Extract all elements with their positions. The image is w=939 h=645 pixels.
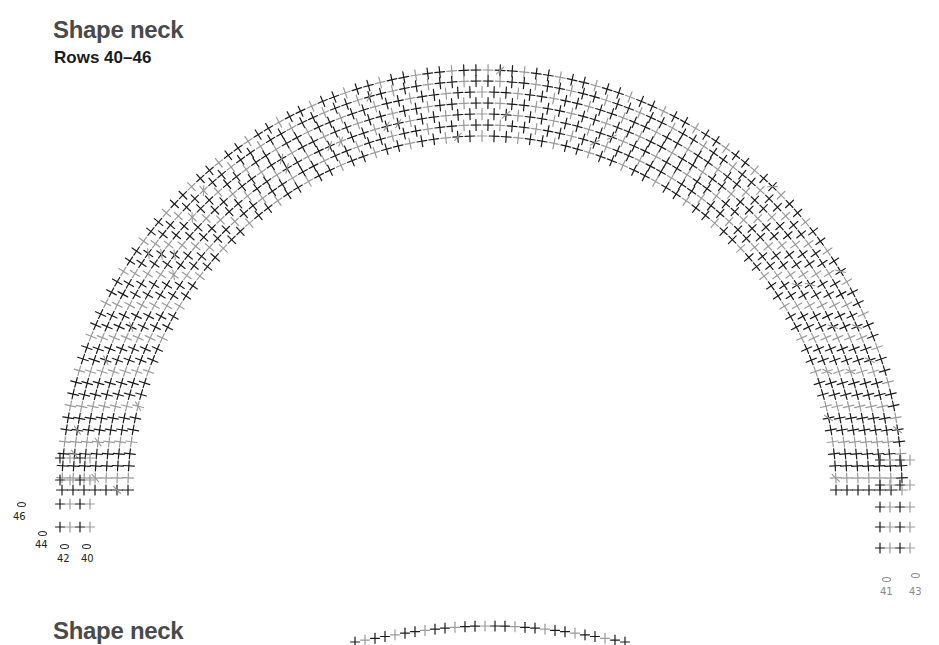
stitch-diagram (0, 0, 939, 645)
row-label-40: 40 (81, 553, 94, 564)
chain-stitch-icon (60, 544, 69, 549)
row-label-42: 42 (57, 553, 70, 564)
chain-stitch-icon (17, 502, 26, 507)
row-label-46: 46 (13, 511, 26, 522)
chain-stitch-icon (38, 531, 47, 536)
chain-stitch-icon (882, 577, 891, 582)
row-label-44: 44 (35, 539, 48, 550)
chain-stitch-icon (82, 544, 91, 549)
chain-stitch-icon (911, 573, 920, 578)
row-label-41: 41 (880, 586, 893, 597)
row-label-43: 43 (909, 586, 922, 597)
